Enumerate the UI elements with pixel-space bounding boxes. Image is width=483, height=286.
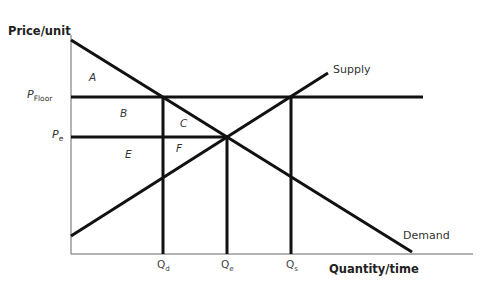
price-eq-label: Pe: [52, 128, 63, 143]
price-eq-main: P: [52, 128, 59, 141]
area-b-label: B: [120, 107, 127, 119]
area-e-label: E: [125, 148, 132, 160]
price-floor-sub: Floor: [34, 94, 53, 103]
demand-label: Demand: [403, 229, 450, 242]
area-c-label: C: [180, 117, 187, 129]
price-floor-label: PFloor: [27, 88, 52, 103]
x-axis-title: Quantity/time: [329, 262, 419, 276]
qd-label: Qd: [157, 258, 170, 273]
area-f-label: F: [176, 142, 182, 154]
qs-sub: s: [294, 265, 298, 273]
y-axis-title: Price/unit: [8, 24, 71, 38]
supply-label: Supply: [333, 63, 371, 76]
area-a-label: A: [89, 71, 96, 83]
diagram-canvas: [0, 0, 483, 286]
qs-label: Qs: [286, 258, 298, 273]
qe-label: Qe: [221, 258, 234, 273]
price-floor-main: P: [27, 88, 34, 101]
qe-sub: e: [229, 265, 233, 273]
price-eq-sub: e: [59, 134, 64, 143]
qd-sub: d: [165, 265, 169, 273]
